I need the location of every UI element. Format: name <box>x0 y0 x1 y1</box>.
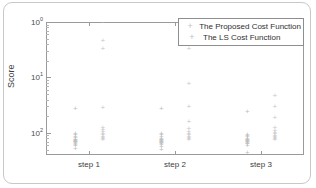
data-point-marker: + <box>272 103 277 111</box>
y-axis-tick-label: 102 <box>31 128 43 137</box>
y-axis-tick-label: 101 <box>31 73 43 82</box>
y-axis-major-tick <box>46 77 51 78</box>
y-axis-minor-tick <box>46 150 49 151</box>
legend-item-proposed: + The Proposed Cost Function <box>181 21 301 32</box>
y-axis-minor-tick <box>46 100 49 101</box>
data-point-marker: + <box>100 136 105 144</box>
y-axis-minor-tick <box>46 34 49 35</box>
y-axis-minor-tick <box>46 138 49 139</box>
x-axis-tick <box>261 151 262 155</box>
y-axis-minor-tick <box>46 44 49 45</box>
x-axis-tick-top <box>89 22 90 26</box>
y-axis-minor-tick <box>46 31 49 32</box>
y-axis-major-tick <box>46 22 51 23</box>
legend-label-ls: The LS Cost Function <box>203 32 280 43</box>
y-axis-minor-tick <box>46 51 49 52</box>
x-axis-tick-label: step 2 <box>164 160 186 169</box>
x-axis-tick-top <box>175 22 176 26</box>
y-axis-minor-tick <box>46 25 49 26</box>
data-point-marker: + <box>73 105 78 113</box>
y-axis-tick-label: 100 <box>31 18 43 27</box>
y-axis-minor-tick <box>46 106 49 107</box>
data-point-marker: + <box>186 136 191 144</box>
data-point-marker: + <box>186 103 191 111</box>
data-point-marker: + <box>245 149 250 155</box>
y-axis-minor-tick <box>46 145 49 146</box>
y-axis-minor-tick <box>46 27 49 28</box>
y-axis-minor-tick <box>46 80 49 81</box>
data-point-marker: + <box>100 22 105 26</box>
y-axis-minor-tick <box>46 61 49 62</box>
x-axis-tick-label: step 1 <box>78 160 100 169</box>
data-point-marker: + <box>272 114 277 122</box>
data-point-marker: + <box>73 145 78 153</box>
y-axis-minor-tick <box>46 135 49 136</box>
data-point-marker: + <box>186 80 191 88</box>
y-axis-minor-tick <box>46 94 49 95</box>
data-point-marker: + <box>100 104 105 112</box>
y-axis-minor-tick <box>46 116 49 117</box>
x-axis-tick <box>175 151 176 155</box>
legend-label-proposed: The Proposed Cost Function <box>199 21 301 32</box>
data-point-marker: + <box>159 146 164 154</box>
y-axis-minor-tick <box>46 86 49 87</box>
legend[interactable]: + The Proposed Cost Function + The LS Co… <box>178 18 304 46</box>
plus-marker-icon: + <box>181 32 203 43</box>
legend-item-ls: + The LS Cost Function <box>181 32 301 43</box>
x-axis-tick-label: step 3 <box>250 160 272 169</box>
data-point-marker: + <box>159 105 164 113</box>
figure-page: Score 102101100 ++++++++++++++++++++++++… <box>0 0 316 188</box>
x-axis-tick <box>89 151 90 155</box>
y-axis-minor-tick <box>46 90 49 91</box>
y-axis-tick-labels: 102101100 <box>0 22 43 155</box>
plus-marker-icon: + <box>181 21 199 32</box>
data-point-marker: + <box>100 45 105 53</box>
y-axis-minor-tick <box>46 39 49 40</box>
y-axis-minor-tick <box>46 83 49 84</box>
data-point-marker: + <box>245 108 250 116</box>
y-axis-major-tick <box>46 133 51 134</box>
data-point-marker: + <box>272 136 277 144</box>
y-axis-minor-tick <box>46 142 49 143</box>
data-point-marker: + <box>272 92 277 100</box>
